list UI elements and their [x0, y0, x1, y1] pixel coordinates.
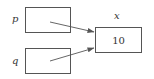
pointer-q-label: q	[12, 56, 18, 66]
pointer-p-box	[25, 7, 71, 33]
variable-x-label: x	[114, 11, 120, 21]
variable-x-value: 10	[96, 36, 141, 46]
pointer-q-box	[25, 48, 71, 74]
pointer-p-label: p	[12, 14, 18, 24]
pointer-diagram: p q x 10	[0, 0, 154, 79]
variable-x-box: 10	[95, 27, 142, 53]
